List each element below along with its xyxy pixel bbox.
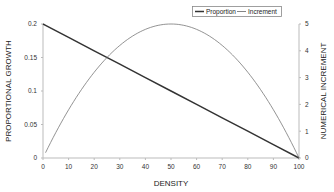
series [43,24,299,158]
y2-tick-label: 4 [305,47,309,54]
y-axis-title: PROPORTIONAL GROWTH [4,40,13,142]
series-proportion-line [43,24,299,158]
y-tick-label: 0.2 [28,20,37,27]
axes: 010203040506070809010000.050.10.150.2012… [24,20,309,170]
y2-tick-label: 3 [305,74,309,81]
y2-tick-label: 0 [305,154,309,161]
x-tick-label: 40 [142,163,150,170]
y-tick-label: 0 [33,154,37,161]
legend-label-proportion: Proportion [206,8,236,16]
x-tick-label: 0 [41,163,45,170]
y-tick-label: 0.05 [24,121,37,128]
legend: ProportionIncrement [193,7,282,17]
y2-tick-label: 2 [305,101,309,108]
legend-label-increment: Increment [248,8,277,15]
x-tick-label: 30 [116,163,124,170]
y-tick-label: 0.1 [28,87,37,94]
y2-axis-title: NUMERICAL INCREMENT [319,43,328,140]
x-tick-label: 20 [91,163,99,170]
x-tick-label: 80 [244,163,252,170]
x-axis-title: DENSITY [154,179,189,188]
y-tick-label: 0.15 [24,54,37,61]
x-tick-label: 100 [294,163,305,170]
x-tick-label: 10 [65,163,73,170]
x-tick-label: 70 [219,163,227,170]
x-tick-label: 60 [193,163,201,170]
x-tick-label: 50 [167,163,175,170]
y2-tick-label: 1 [305,128,309,135]
y2-tick-label: 5 [305,20,309,27]
chart: 010203040506070809010000.050.10.150.2012… [0,0,334,192]
x-tick-label: 90 [270,163,278,170]
